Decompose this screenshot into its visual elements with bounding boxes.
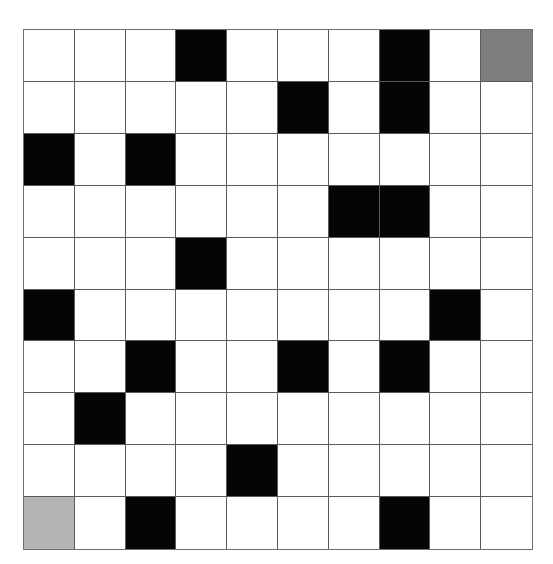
grid-cell[interactable] [126, 186, 177, 238]
grid-cell[interactable] [227, 30, 278, 82]
wall-cell[interactable] [329, 186, 380, 238]
grid-cell[interactable] [126, 290, 177, 342]
grid-cell[interactable] [24, 445, 75, 497]
grid-cell[interactable] [227, 186, 278, 238]
wall-cell[interactable] [176, 238, 227, 290]
grid-cell[interactable] [481, 497, 532, 549]
wall-cell[interactable] [126, 341, 177, 393]
grid-cell[interactable] [329, 82, 380, 134]
wall-cell[interactable] [380, 30, 431, 82]
wall-cell[interactable] [126, 134, 177, 186]
grid-cell[interactable] [176, 82, 227, 134]
grid-cell[interactable] [278, 497, 329, 549]
grid-cell[interactable] [481, 82, 532, 134]
grid-cell[interactable] [481, 445, 532, 497]
grid-cell[interactable] [278, 290, 329, 342]
grid-cell[interactable] [430, 497, 481, 549]
grid-cell[interactable] [176, 186, 227, 238]
grid-cell[interactable] [227, 238, 278, 290]
grid-cell[interactable] [278, 186, 329, 238]
grid-cell[interactable] [227, 497, 278, 549]
grid-cell[interactable] [380, 290, 431, 342]
grid-cell[interactable] [126, 82, 177, 134]
grid-cell[interactable] [24, 30, 75, 82]
grid-cell[interactable] [380, 134, 431, 186]
grid-cell[interactable] [227, 290, 278, 342]
wall-cell[interactable] [430, 290, 481, 342]
grid-cell[interactable] [227, 134, 278, 186]
wall-cell[interactable] [24, 290, 75, 342]
grid-cell[interactable] [75, 30, 126, 82]
grid-cell[interactable] [227, 393, 278, 445]
grid-cell[interactable] [329, 30, 380, 82]
grid-cell[interactable] [24, 393, 75, 445]
grid-cell[interactable] [430, 30, 481, 82]
grid-cell[interactable] [430, 186, 481, 238]
grid-cell[interactable] [430, 445, 481, 497]
grid-cell[interactable] [75, 445, 126, 497]
grid-cell[interactable] [430, 393, 481, 445]
grid-cell[interactable] [24, 238, 75, 290]
grid-cell[interactable] [329, 445, 380, 497]
grid-cell[interactable] [75, 497, 126, 549]
grid-cell[interactable] [278, 30, 329, 82]
grid-cell[interactable] [176, 393, 227, 445]
grid-cell[interactable] [176, 290, 227, 342]
grid-cell[interactable] [329, 290, 380, 342]
grid-cell[interactable] [481, 341, 532, 393]
grid-cell[interactable] [126, 393, 177, 445]
wall-cell[interactable] [380, 82, 431, 134]
grid-cell[interactable] [430, 238, 481, 290]
grid-cell[interactable] [126, 30, 177, 82]
grid-cell[interactable] [126, 445, 177, 497]
grid-cell[interactable] [24, 341, 75, 393]
grid-cell[interactable] [481, 290, 532, 342]
goal-cell[interactable] [481, 30, 532, 82]
grid-cell[interactable] [278, 393, 329, 445]
grid-cell[interactable] [176, 497, 227, 549]
grid-cell[interactable] [176, 341, 227, 393]
grid-cell[interactable] [278, 238, 329, 290]
grid-cell[interactable] [227, 341, 278, 393]
wall-cell[interactable] [176, 30, 227, 82]
grid-cell[interactable] [227, 82, 278, 134]
grid-cell[interactable] [430, 134, 481, 186]
grid-cell[interactable] [329, 238, 380, 290]
wall-cell[interactable] [227, 445, 278, 497]
grid-cell[interactable] [380, 238, 431, 290]
wall-cell[interactable] [24, 134, 75, 186]
grid-cell[interactable] [75, 82, 126, 134]
grid-cell[interactable] [380, 393, 431, 445]
wall-cell[interactable] [380, 186, 431, 238]
grid-cell[interactable] [278, 445, 329, 497]
grid-cell[interactable] [176, 445, 227, 497]
grid-cell[interactable] [24, 82, 75, 134]
grid-cell[interactable] [481, 238, 532, 290]
grid-cell[interactable] [176, 134, 227, 186]
grid-cell[interactable] [481, 134, 532, 186]
grid-cell[interactable] [329, 393, 380, 445]
grid-cell[interactable] [278, 134, 329, 186]
grid-cell[interactable] [75, 290, 126, 342]
grid-cell[interactable] [430, 341, 481, 393]
grid-cell[interactable] [481, 186, 532, 238]
grid-cell[interactable] [75, 341, 126, 393]
grid-cell[interactable] [126, 238, 177, 290]
grid-cell[interactable] [481, 393, 532, 445]
wall-cell[interactable] [380, 497, 431, 549]
start-cell[interactable] [24, 497, 75, 549]
grid-cell[interactable] [75, 134, 126, 186]
wall-cell[interactable] [75, 393, 126, 445]
wall-cell[interactable] [278, 82, 329, 134]
grid-cell[interactable] [380, 445, 431, 497]
wall-cell[interactable] [126, 497, 177, 549]
grid-cell[interactable] [75, 238, 126, 290]
grid-cell[interactable] [75, 186, 126, 238]
wall-cell[interactable] [278, 341, 329, 393]
grid-cell[interactable] [430, 82, 481, 134]
grid-cell[interactable] [329, 497, 380, 549]
grid-cell[interactable] [329, 341, 380, 393]
grid-cell[interactable] [329, 134, 380, 186]
grid-cell[interactable] [24, 186, 75, 238]
wall-cell[interactable] [380, 341, 431, 393]
